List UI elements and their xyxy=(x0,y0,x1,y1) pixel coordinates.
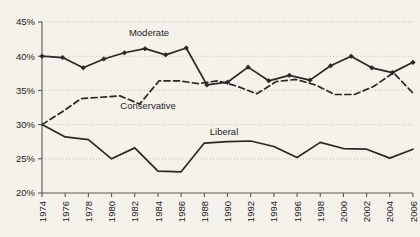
x-axis-tick-label: 1978 xyxy=(83,201,94,222)
x-axis-tick-label: 2002 xyxy=(361,201,372,222)
chart-container: 45%40%35%30%25%20% 197419761978198019821… xyxy=(0,0,420,237)
series-annotation-liberal: Liberal xyxy=(210,126,239,137)
y-axis-tick-label: 30% xyxy=(16,119,36,130)
x-axis-tick-label: 1984 xyxy=(153,201,164,222)
y-axis-tick-label: 40% xyxy=(16,51,36,62)
x-axis-tick-label: 1974 xyxy=(37,201,48,222)
x-axis-tick-label: 1990 xyxy=(222,201,233,222)
x-axis-tick-label: 1986 xyxy=(176,201,187,222)
y-axis-tick-label: 25% xyxy=(16,153,36,164)
x-axis-tick-label: 1980 xyxy=(106,201,117,222)
y-axis-tick-label: 20% xyxy=(16,187,36,198)
x-axis-tick-label: 2004 xyxy=(384,201,395,222)
y-axis-tick-label: 45% xyxy=(16,16,36,27)
x-axis-tick-label: 1998 xyxy=(315,201,326,222)
x-axis-tick-label: 2000 xyxy=(338,201,349,222)
x-axis-tick-label: 2006 xyxy=(408,201,419,222)
x-axis-tick-label: 1976 xyxy=(60,201,71,222)
x-axis-tick-label: 1994 xyxy=(268,201,279,222)
x-axis-tick-label: 1996 xyxy=(292,201,303,222)
line-chart: 45%40%35%30%25%20% 197419761978198019821… xyxy=(0,0,420,237)
x-axis-tick-label: 1992 xyxy=(245,201,256,222)
x-axis-tick-label: 1982 xyxy=(129,201,140,222)
y-axis-tick-label: 35% xyxy=(16,85,36,96)
x-axis-labels-group: 1974197619781980198219841986198819901992… xyxy=(37,201,419,222)
series-annotation-conservative: Conservative xyxy=(120,100,175,111)
series-annotation-moderate: Moderate xyxy=(129,27,169,38)
x-axis-tick-label: 1988 xyxy=(199,201,210,222)
